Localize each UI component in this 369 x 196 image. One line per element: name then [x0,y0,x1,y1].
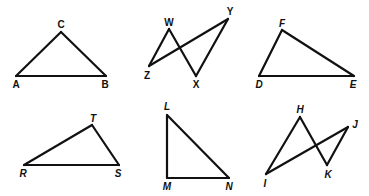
triangle-ABC: CAB [12,19,108,90]
vertex-label-L: L [164,101,170,112]
segment-NL [167,115,229,178]
vertex-label-M: M [163,181,172,192]
vertex-label-W: W [164,17,174,28]
segment-ST [92,125,119,165]
segment-EF [282,30,354,76]
triangle-LMN: LMN [163,101,234,192]
segment-CA [16,32,61,76]
triangle-RST: TRS [19,113,121,179]
vertex-label-H: H [296,104,304,115]
vertex-label-X: X [193,79,200,90]
bowtie-WXYZ: WYZX [144,6,234,90]
vertex-label-B: B [101,79,108,90]
vertex-label-Z: Z [144,70,150,81]
vertex-label-S: S [115,168,122,179]
segment-BC [61,32,106,76]
triangle-DEF: FDE [255,18,356,90]
vertex-label-T: T [90,113,97,124]
vertex-label-R: R [19,168,27,179]
segment-FD [259,30,282,76]
vertex-label-C: C [57,19,64,30]
vertex-label-I: I [264,178,267,189]
vertex-label-J: J [352,119,358,130]
vertex-label-N: N [225,181,233,192]
segment-TR [24,125,92,165]
vertex-label-Y: Y [227,6,234,17]
geometry-figures-diagram: CABWYZXFDETRSLMNHJKI [0,0,369,196]
vertex-label-D: D [255,79,262,90]
vertex-label-F: F [279,18,286,29]
bowtie-HIJK: HJKI [264,104,359,189]
vertex-label-A: A [12,79,19,90]
vertex-label-E: E [350,79,357,90]
vertex-label-K: K [324,169,332,180]
